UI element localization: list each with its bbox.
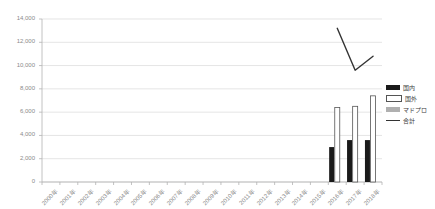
y-axis-tick-label: 2,000 xyxy=(5,155,35,161)
bar-国外 xyxy=(335,107,340,182)
legend-item-overseas[interactable]: 国外 xyxy=(386,93,434,104)
legend-swatch-overseas-icon xyxy=(386,95,402,102)
legend-swatch-madrid-icon xyxy=(386,107,400,112)
bar-国内 xyxy=(365,140,370,182)
bar-国内 xyxy=(329,147,334,182)
y-axis-tick-label: 14,000 xyxy=(5,15,35,21)
y-axis-tick-label: 10,000 xyxy=(5,62,35,68)
legend-item-total[interactable]: 合計 xyxy=(386,115,434,126)
legend-label-overseas: 国外 xyxy=(405,96,417,102)
bar-国内 xyxy=(347,140,352,182)
y-axis-tick-label: 0 xyxy=(5,178,35,184)
legend-label-total: 合計 xyxy=(403,118,415,124)
bar-国外 xyxy=(371,96,376,182)
y-axis-tick-label: 4,000 xyxy=(5,131,35,137)
chart-legend: 国内国外マドプロ合計 xyxy=(386,82,434,126)
chart-canvas xyxy=(0,0,435,209)
bar-国外 xyxy=(353,106,358,182)
legend-item-domestic[interactable]: 国内 xyxy=(386,82,434,93)
line-合計 xyxy=(337,28,373,70)
legend-item-madrid[interactable]: マドプロ xyxy=(386,104,434,115)
chart-container: 国内国外マドプロ合計 14,00012,00010,0008,0006,0004… xyxy=(0,0,435,209)
y-axis-tick-label: 12,000 xyxy=(5,38,35,44)
legend-swatch-total-icon xyxy=(386,120,400,121)
legend-swatch-domestic-icon xyxy=(386,85,400,90)
y-axis-tick-label: 6,000 xyxy=(5,108,35,114)
legend-label-madrid: マドプロ xyxy=(403,107,427,113)
legend-label-domestic: 国内 xyxy=(403,85,415,91)
y-axis-tick-label: 8,000 xyxy=(5,85,35,91)
